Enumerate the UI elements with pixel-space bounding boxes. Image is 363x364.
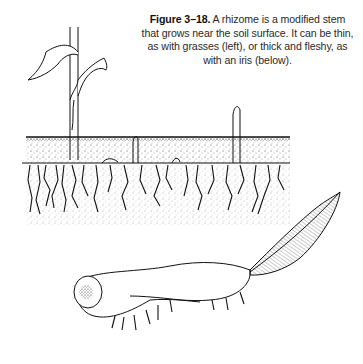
- rhizome-illustration: [0, 0, 363, 364]
